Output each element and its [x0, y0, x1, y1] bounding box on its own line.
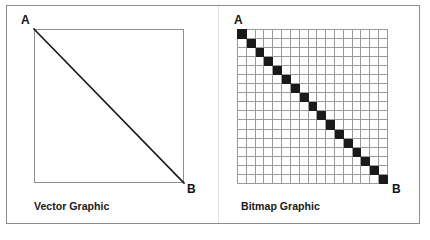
bitmap-pixel-off — [282, 129, 291, 138]
bitmap-pixel-off — [290, 174, 299, 183]
bitmap-pixel-off — [299, 147, 308, 156]
bitmap-pixel-off — [264, 66, 273, 75]
bitmap-pixel-off — [370, 66, 379, 75]
bitmap-pixel-off — [308, 66, 317, 75]
bitmap-row — [238, 57, 388, 66]
bitmap-pixel-off — [246, 147, 255, 156]
bitmap-pixel-off — [308, 147, 317, 156]
bitmap-pixel-off — [317, 147, 326, 156]
vector-diagonal-line — [34, 29, 184, 183]
bitmap-row — [238, 156, 388, 165]
bitmap-pixel-off — [308, 165, 317, 174]
bitmap-pixel-off — [343, 156, 352, 165]
bitmap-pixel-off — [361, 30, 370, 39]
bitmap-pixel-off — [255, 165, 264, 174]
bitmap-row — [238, 102, 388, 111]
bitmap-pixel-on — [308, 102, 317, 111]
bitmap-pixel-off — [246, 156, 255, 165]
bitmap-pixel-off — [379, 66, 388, 75]
bitmap-pixel-off — [326, 30, 335, 39]
bitmap-pixel-off — [343, 120, 352, 129]
bitmap-pixel-off — [273, 48, 282, 57]
bitmap-pixel-on — [361, 156, 370, 165]
bitmap-pixel-off — [361, 129, 370, 138]
bitmap-pixel-off — [352, 39, 361, 48]
bitmap-pixel-off — [352, 156, 361, 165]
bitmap-pixel-off — [352, 57, 361, 66]
bitmap-pixel-off — [273, 147, 282, 156]
bitmap-pixel-off — [352, 30, 361, 39]
bitmap-pixel-off — [379, 75, 388, 84]
bitmap-pixel-off — [246, 84, 255, 93]
bitmap-pixel-on — [352, 147, 361, 156]
bitmap-pixel-off — [361, 111, 370, 120]
bitmap-pixel-off — [246, 138, 255, 147]
bitmap-pixel-off — [238, 48, 247, 57]
bitmap-pixel-off — [282, 48, 291, 57]
bitmap-pixel-off — [282, 93, 291, 102]
bitmap-pixel-off — [273, 102, 282, 111]
bitmap-pixel-off — [352, 120, 361, 129]
bitmap-pixel-off — [334, 30, 343, 39]
bitmap-pixel-off — [379, 102, 388, 111]
bitmap-pixel-off — [352, 48, 361, 57]
bitmap-pixel-off — [334, 57, 343, 66]
bitmap-row — [238, 120, 388, 129]
bitmap-pixel-off — [246, 120, 255, 129]
bitmap-pixel-off — [370, 129, 379, 138]
bitmap-pixel-off — [246, 174, 255, 183]
bitmap-pixel-off — [370, 75, 379, 84]
bitmap-pixel-off — [361, 39, 370, 48]
bitmap-pixel-off — [334, 75, 343, 84]
bitmap-row — [238, 84, 388, 93]
bitmap-pixel-off — [361, 138, 370, 147]
bitmap-row — [238, 48, 388, 57]
bitmap-pixel-off — [282, 111, 291, 120]
bitmap-pixel-off — [273, 84, 282, 93]
bitmap-pixel-off — [238, 93, 247, 102]
bitmap-pixel-off — [317, 129, 326, 138]
bitmap-pixel-off — [290, 156, 299, 165]
bitmap-pixel-off — [343, 174, 352, 183]
bitmap-pixel-off — [370, 102, 379, 111]
bitmap-pixel-off — [326, 39, 335, 48]
bitmap-row — [238, 111, 388, 120]
bitmap-pixel-off — [352, 111, 361, 120]
bitmap-pixel-on — [255, 48, 264, 57]
bitmap-pixel-off — [299, 165, 308, 174]
bitmap-pixel-off — [290, 93, 299, 102]
bitmap-pixel-off — [246, 30, 255, 39]
bitmap-pixel-off — [370, 30, 379, 39]
bitmap-pixel-off — [317, 75, 326, 84]
bitmap-pixel-off — [255, 174, 264, 183]
bitmap-pixel-off — [352, 174, 361, 183]
bitmap-pixel-off — [352, 84, 361, 93]
bitmap-row — [238, 174, 388, 183]
bitmap-graphic-caption: Bitmap Graphic — [241, 200, 320, 213]
bitmap-pixel-off — [299, 30, 308, 39]
bitmap-pixel-off — [343, 111, 352, 120]
bitmap-pixel-off — [282, 66, 291, 75]
bitmap-pixel-off — [299, 102, 308, 111]
bitmap-pixel-off — [317, 57, 326, 66]
bitmap-pixel-off — [317, 102, 326, 111]
bitmap-pixel-off — [255, 57, 264, 66]
bitmap-pixel-on — [343, 138, 352, 147]
bitmap-pixel-off — [282, 57, 291, 66]
bitmap-pixel-off — [361, 66, 370, 75]
bitmap-row — [238, 93, 388, 102]
bitmap-pixel-off — [299, 57, 308, 66]
bitmap-pixel-off — [326, 102, 335, 111]
bitmap-pixel-off — [282, 30, 291, 39]
bitmap-pixel-off — [308, 129, 317, 138]
bitmap-pixel-off — [264, 129, 273, 138]
bitmap-pixel-off — [317, 93, 326, 102]
bitmap-pixel-off — [352, 129, 361, 138]
bitmap-pixel-off — [361, 174, 370, 183]
bitmap-pixel-off — [290, 75, 299, 84]
bitmap-pixel-off — [290, 48, 299, 57]
bitmap-pixel-off — [343, 93, 352, 102]
bitmap-pixel-off — [308, 48, 317, 57]
bitmap-pixel-off — [255, 111, 264, 120]
bitmap-pixel-off — [282, 39, 291, 48]
